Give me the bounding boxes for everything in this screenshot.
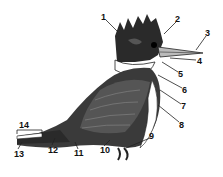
label-2: 2 [175,15,180,24]
kingfisher-illustration [0,0,223,177]
label-7: 7 [181,102,186,111]
label-1: 1 [101,13,106,22]
label-4: 4 [197,57,202,66]
label-5: 5 [178,70,183,79]
label-13: 13 [14,150,24,159]
label-3: 3 [205,29,210,38]
label-9: 9 [149,132,154,141]
label-10: 10 [100,146,110,155]
label-11: 11 [74,149,84,158]
label-12: 12 [48,146,58,155]
label-14: 14 [19,121,29,130]
label-6: 6 [182,86,187,95]
label-8: 8 [179,121,184,130]
